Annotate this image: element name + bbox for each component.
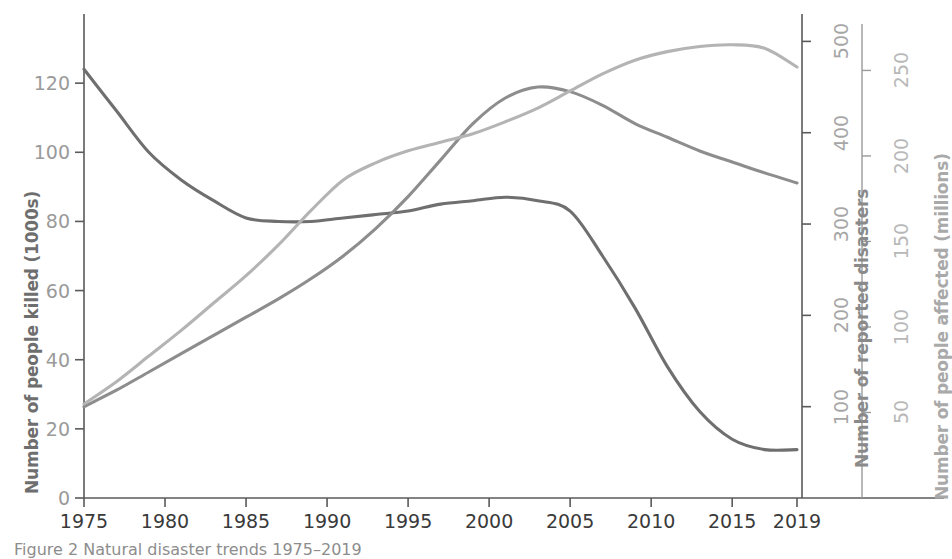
x-axis-tick-label: 1975 <box>60 510 108 532</box>
axis-layer <box>75 14 944 507</box>
x-axis-tick-label: 2015 <box>708 510 756 532</box>
y-axis-left-title: Number of people killed (1000s) <box>22 191 42 494</box>
y-axis-left-tick-label: 0 <box>58 487 70 509</box>
y-axis-right-2-tick-label: 250 <box>890 52 912 88</box>
y-axis-right-1-tick-label: 200 <box>830 297 852 333</box>
series-line-2 <box>84 45 797 404</box>
y-axis-right-2-title: Number of people affected (millions) <box>932 153 952 500</box>
y-axis-right-2-tick-label: 50 <box>890 400 912 424</box>
series-line-0 <box>84 69 797 450</box>
x-axis-tick-label: 1980 <box>141 510 189 532</box>
x-axis-tick-label: 1995 <box>384 510 432 532</box>
series-layer <box>84 45 797 451</box>
y-axis-left-tick-label: 100 <box>34 141 70 163</box>
series-line-1 <box>84 87 797 407</box>
y-axis-right-1-tick-label: 300 <box>830 206 852 242</box>
y-axis-right-1-tick-label: 500 <box>830 23 852 59</box>
y-axis-right-2-tick-label: 150 <box>890 223 912 259</box>
figure-caption: Figure 2 Natural disaster trends 1975–20… <box>14 540 362 559</box>
y-axis-right-1-tick-label: 100 <box>830 389 852 425</box>
y-axis-left-tick-label: 80 <box>46 210 70 232</box>
x-axis-tick-label: 2000 <box>465 510 513 532</box>
x-axis-tick-label: 1985 <box>222 510 270 532</box>
x-axis-tick-label: 1990 <box>303 510 351 532</box>
y-axis-left-tick-label: 120 <box>34 72 70 94</box>
y-axis-left-tick-label: 40 <box>46 349 70 371</box>
y-axis-right-2-tick-label: 100 <box>890 309 912 345</box>
y-axis-right-1-title: Number of reported disasters <box>852 189 872 468</box>
x-axis-tick-label: 2010 <box>627 510 675 532</box>
y-axis-left-tick-label: 20 <box>46 418 70 440</box>
y-axis-right-1-tick-label: 400 <box>830 115 852 151</box>
y-axis-left-tick-label: 60 <box>46 280 70 302</box>
x-axis-tick-label: 2005 <box>546 510 594 532</box>
y-axis-right-2-tick-label: 200 <box>890 138 912 174</box>
x-axis-tick-label: 2019 <box>773 510 821 532</box>
